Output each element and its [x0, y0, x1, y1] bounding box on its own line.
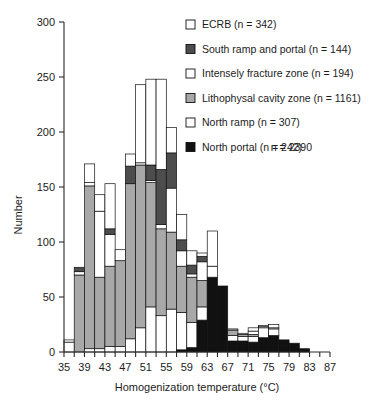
bar-segment: [146, 183, 156, 307]
legend-label: Intensely fracture zone (n = 194): [202, 67, 353, 79]
histogram-bar: [136, 85, 146, 352]
bar-segment: [197, 262, 207, 281]
bar-segment: [187, 277, 197, 322]
histogram-bar: [74, 267, 84, 352]
bar-segment: [115, 261, 125, 347]
legend-swatch: [186, 69, 195, 78]
bar-segment: [105, 234, 115, 266]
bar-segment: [197, 320, 207, 352]
histogram-bar: [217, 286, 227, 352]
bar-segment: [228, 336, 238, 342]
histogram-bar: [289, 343, 299, 352]
x-tick-label: 35: [58, 361, 70, 373]
bar-segment: [105, 347, 115, 353]
bar-segment: [166, 188, 176, 232]
histogram-bar: [84, 164, 94, 352]
bar-segment: [258, 326, 268, 327]
bar-segment: [197, 253, 207, 256]
bar-segment: [105, 184, 115, 229]
histogram-bar: [125, 154, 135, 352]
histogram-chart: 050100150200250300 353943475155596367717…: [0, 0, 377, 402]
bar-segment: [156, 316, 166, 352]
bar-segment: [125, 154, 135, 166]
bar-segment: [156, 229, 166, 316]
bar-segment: [177, 215, 187, 240]
bar-segment: [248, 337, 258, 343]
bar-segment: [187, 265, 197, 274]
y-tick-label: 100: [37, 236, 55, 248]
y-tick-label: 300: [37, 16, 55, 28]
bar-segment: [136, 165, 146, 328]
y-tick-label: 150: [37, 181, 55, 193]
histogram-bar: [187, 251, 197, 352]
y-tick-label: 0: [49, 346, 55, 358]
bar-segment: [125, 184, 135, 339]
bar-segment: [105, 229, 115, 235]
x-tick-label: 43: [99, 361, 111, 373]
legend-swatch: [186, 143, 195, 152]
histogram-bar: [269, 325, 279, 353]
bar-segment: [84, 186, 94, 349]
bar-segment: [115, 250, 125, 261]
x-tick-label: 59: [181, 361, 193, 373]
bar-segment: [228, 330, 238, 336]
legend-label: ECRB (n = 342): [202, 18, 276, 30]
histogram-bar: [177, 215, 187, 353]
bar-segment: [289, 343, 299, 352]
bar-segment: [166, 153, 176, 188]
x-tick-label: 39: [78, 361, 90, 373]
x-tick-label: 75: [262, 361, 274, 373]
x-tick-label: 79: [283, 361, 295, 373]
bar-segment: [177, 312, 187, 349]
legend-label: South ramp and portal (n = 144): [202, 43, 351, 55]
bar-segment: [177, 240, 187, 251]
histogram-bar: [228, 329, 238, 352]
bar-segment: [156, 169, 166, 224]
y-axis-title: Number: [12, 195, 24, 234]
bar-segment: [95, 195, 105, 212]
bar-segment: [166, 128, 176, 153]
legend-label: North ramp (n = 307): [202, 116, 300, 128]
legend-item: Lithophysal cavity zone (n = 1161): [186, 92, 361, 104]
bar-segment: [146, 79, 156, 165]
bar-segment: [238, 333, 248, 334]
bar-segment: [64, 340, 74, 342]
bar-segment: [258, 328, 268, 338]
chart-canvas: 050100150200250300 353943475155596367717…: [0, 0, 377, 402]
histogram-bar: [105, 184, 115, 352]
x-tick-label: 55: [160, 361, 172, 373]
bar-segment: [248, 328, 258, 331]
bar-segment: [269, 325, 279, 328]
x-axis-title: Homogenization temperature (°C): [115, 381, 280, 393]
total-count-annotation: n = 2390: [271, 141, 312, 153]
bar-segment: [177, 251, 187, 266]
bar-segment: [115, 347, 125, 353]
bar-segment: [248, 342, 258, 352]
histogram-bar: [115, 250, 125, 352]
y-tick-label: 200: [37, 126, 55, 138]
histogram-bar: [197, 253, 207, 352]
bar-segment: [207, 266, 217, 277]
bar-segment: [187, 274, 197, 277]
x-tick-label: 83: [303, 361, 315, 373]
bar-segment: [258, 338, 268, 352]
bar-segment: [125, 339, 135, 352]
bar-segment: [207, 231, 217, 266]
bar-segment: [228, 329, 238, 330]
bar-segment: [74, 267, 84, 271]
bar-segment: [197, 281, 207, 307]
bar-segment: [64, 342, 74, 352]
bar-segment: [238, 341, 248, 352]
legend-swatch: [186, 20, 195, 29]
bar-segment: [269, 336, 279, 353]
bar-segment: [95, 211, 105, 277]
histogram-bar: [95, 195, 105, 352]
legend-swatch: [186, 118, 195, 127]
bar-segment: [95, 277, 105, 349]
legend-label: Lithophysal cavity zone (n = 1161): [202, 92, 361, 104]
bar-segment: [217, 286, 227, 352]
bar-segment: [125, 166, 135, 184]
bar-segment: [166, 232, 176, 309]
bar-segment: [136, 85, 146, 163]
bar-segment: [187, 251, 197, 265]
